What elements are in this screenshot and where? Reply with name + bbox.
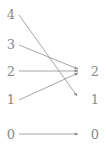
codomain-node-2: 2 xyxy=(89,65,101,78)
edge-group xyxy=(19,15,78,134)
domain-node-4: 4 xyxy=(5,8,17,21)
edge-3-to-2 xyxy=(19,45,78,69)
edge-1-to-2 xyxy=(19,73,78,100)
codomain-node-0: 0 xyxy=(89,128,101,141)
mapping-diagram: 4 3 2 1 0 2 1 0 xyxy=(0,0,106,153)
domain-node-3: 3 xyxy=(5,38,17,51)
domain-node-2: 2 xyxy=(5,65,17,78)
domain-node-1: 1 xyxy=(5,93,17,106)
domain-node-0: 0 xyxy=(5,128,17,141)
codomain-node-1: 1 xyxy=(89,93,101,106)
edge-4-to-1 xyxy=(19,15,77,96)
